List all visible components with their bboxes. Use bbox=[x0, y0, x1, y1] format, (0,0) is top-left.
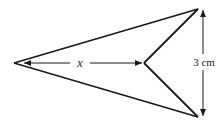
label-x: x bbox=[76, 56, 83, 70]
label-3cm: 3 cm bbox=[193, 56, 215, 68]
dart-diagram: x 3 cm bbox=[0, 0, 222, 128]
